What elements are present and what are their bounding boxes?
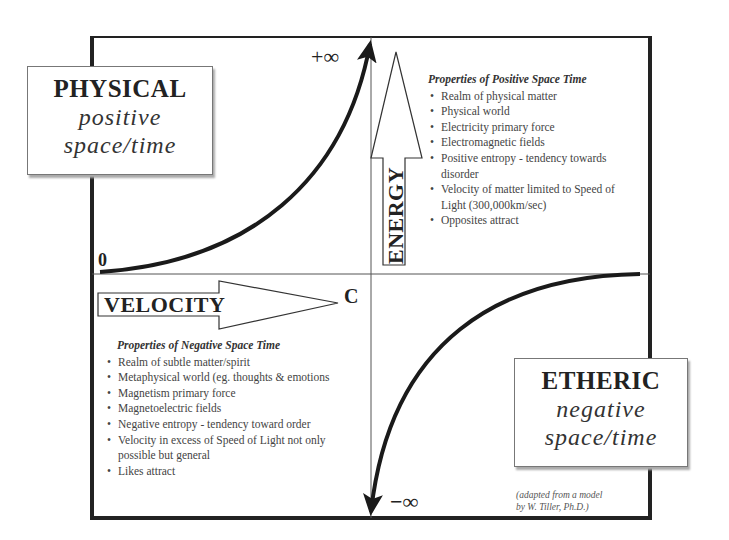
list-item: Positive entropy - tendency towards diso… bbox=[428, 151, 619, 182]
positive-properties-list: Realm of physical matter Physical world … bbox=[428, 89, 648, 229]
list-item: Physical world bbox=[428, 104, 648, 120]
negative-properties: Properties of Negative Space Time Realm … bbox=[105, 338, 355, 479]
list-item: Velocity of matter limited to Speed of L… bbox=[428, 182, 641, 213]
positive-properties-heading: Properties of Positive Space Time bbox=[428, 72, 648, 88]
positive-infinity-label: +∞ bbox=[311, 44, 339, 70]
negative-properties-heading: Properties of Negative Space Time bbox=[105, 338, 355, 354]
list-item: Velocity in excess of Speed of Light not… bbox=[105, 433, 343, 464]
list-item: Magnetoelectric fields bbox=[105, 401, 355, 417]
list-item: Likes attract bbox=[105, 464, 355, 480]
etheric-box: ETHERIC negative space/time bbox=[514, 358, 688, 467]
physical-subtitle-line2: space/time bbox=[28, 131, 212, 159]
velocity-axis-label: VELOCITY bbox=[104, 292, 225, 318]
list-item: Opposites attract bbox=[428, 213, 648, 229]
list-item: Electromagnetic fields bbox=[428, 135, 648, 151]
credit-line1: (adapted from a model bbox=[516, 489, 602, 501]
origin-label: 0 bbox=[98, 250, 107, 271]
list-item: Negative entropy - tendency toward order bbox=[105, 417, 348, 433]
list-item: Electricity primary force bbox=[428, 120, 648, 136]
etheric-subtitle-line1: negative bbox=[515, 395, 687, 423]
physical-subtitle-line1: positive bbox=[28, 103, 212, 131]
speed-of-light-label: C bbox=[344, 285, 358, 308]
energy-axis-label: ENERGY bbox=[383, 167, 409, 264]
etheric-title: ETHERIC bbox=[515, 367, 687, 395]
list-item: Metaphysical world (eg. thoughts & emoti… bbox=[105, 370, 343, 386]
physical-box: PHYSICAL positive space/time bbox=[27, 66, 213, 175]
list-item: Realm of subtle matter/spirit bbox=[105, 355, 355, 371]
credit-line2: by W. Tiller, Ph.D.) bbox=[516, 501, 602, 513]
list-item: Realm of physical matter bbox=[428, 89, 648, 105]
list-item: Magnetism primary force bbox=[105, 386, 355, 402]
physical-title: PHYSICAL bbox=[28, 75, 212, 103]
etheric-subtitle-line2: space/time bbox=[515, 423, 687, 451]
credit-note: (adapted from a model by W. Tiller, Ph.D… bbox=[516, 489, 602, 513]
negative-properties-list: Realm of subtle matter/spirit Metaphysic… bbox=[105, 355, 355, 480]
positive-properties: Properties of Positive Space Time Realm … bbox=[428, 72, 648, 229]
negative-infinity-label: −∞ bbox=[390, 489, 418, 515]
